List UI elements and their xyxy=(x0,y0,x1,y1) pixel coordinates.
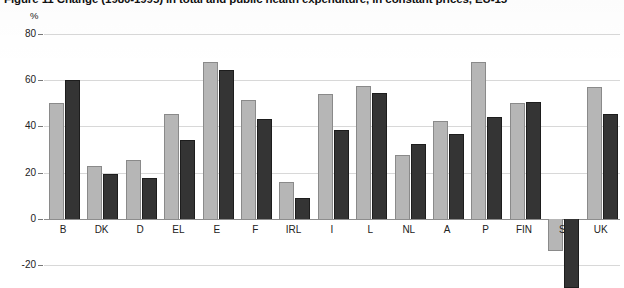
x-axis-label-IRL: IRL xyxy=(274,224,312,235)
plot-area: 806040200-20 xyxy=(44,28,620,279)
bar-group xyxy=(82,28,120,279)
bar-group xyxy=(390,28,428,279)
x-axis-label-P: P xyxy=(466,224,504,235)
bar-public-P xyxy=(487,117,502,219)
bar-total-L xyxy=(356,86,371,219)
bar-total-EL xyxy=(164,114,179,219)
bar-total-D xyxy=(126,160,141,219)
bar-total-DK xyxy=(87,166,102,219)
y-tick-label-60: 60 xyxy=(0,74,36,85)
bar-group xyxy=(121,28,159,279)
y-axis-unit-label: % xyxy=(30,10,38,21)
bar-public-E xyxy=(219,70,234,219)
bar-public-IRL xyxy=(295,198,310,219)
bar-public-NL xyxy=(411,144,426,219)
y-tick-mark-80 xyxy=(38,34,43,35)
bar-total-IRL xyxy=(279,182,294,219)
x-axis-labels: BDKDELEFIRLILNLAPFINSUK xyxy=(44,0,620,20)
y-tick-mark--20 xyxy=(38,265,43,266)
bar-public-L xyxy=(372,93,387,219)
bar-public-UK xyxy=(603,114,618,219)
bar-group xyxy=(274,28,312,279)
bar-group xyxy=(466,28,504,279)
y-tick-mark-0 xyxy=(38,219,43,220)
x-axis-label-F: F xyxy=(236,224,274,235)
y-tick-label--20: -20 xyxy=(0,259,36,270)
y-tick-mark-40 xyxy=(38,126,43,127)
bar-total-E xyxy=(203,62,218,219)
bar-public-F xyxy=(257,119,272,218)
bar-public-DK xyxy=(103,174,118,219)
bar-group xyxy=(543,28,581,279)
bar-total-F xyxy=(241,100,256,219)
x-axis-label-DK: DK xyxy=(82,224,120,235)
bar-group xyxy=(351,28,389,279)
bar-public-FIN xyxy=(526,102,541,219)
x-axis-label-EL: EL xyxy=(159,224,197,235)
bar-public-I xyxy=(334,130,349,219)
bar-total-P xyxy=(471,62,486,219)
bar-total-I xyxy=(318,94,333,219)
y-tick-label-20: 20 xyxy=(0,167,36,178)
x-axis-label-S: S xyxy=(543,224,581,235)
bar-total-A xyxy=(433,121,448,219)
x-axis-label-UK: UK xyxy=(582,224,620,235)
x-axis-label-E: E xyxy=(198,224,236,235)
bar-public-D xyxy=(142,178,157,218)
x-axis-label-FIN: FIN xyxy=(505,224,543,235)
x-axis-label-D: D xyxy=(121,224,159,235)
y-tick-mark-60 xyxy=(38,80,43,81)
bar-group xyxy=(198,28,236,279)
bar-group xyxy=(505,28,543,279)
bar-group xyxy=(313,28,351,279)
bar-public-EL xyxy=(180,140,195,219)
bar-total-FIN xyxy=(510,103,525,219)
x-axis-label-A: A xyxy=(428,224,466,235)
y-tick-label-80: 80 xyxy=(0,28,36,39)
bar-group xyxy=(159,28,197,279)
bar-group xyxy=(428,28,466,279)
y-tick-mark-20 xyxy=(38,173,43,174)
bar-group xyxy=(582,28,620,279)
x-axis-label-B: B xyxy=(44,224,82,235)
bar-group xyxy=(236,28,274,279)
bar-total-NL xyxy=(395,155,410,219)
y-tick-label-0: 0 xyxy=(0,213,36,224)
x-axis-label-I: I xyxy=(313,224,351,235)
bar-total-UK xyxy=(587,87,602,219)
x-axis-label-L: L xyxy=(351,224,389,235)
bar-series-container xyxy=(44,28,620,279)
bar-public-B xyxy=(65,80,80,219)
bar-group xyxy=(44,28,82,279)
y-tick-label-40: 40 xyxy=(0,120,36,131)
x-axis-label-NL: NL xyxy=(390,224,428,235)
bar-total-B xyxy=(49,103,64,219)
bar-public-A xyxy=(449,134,464,218)
